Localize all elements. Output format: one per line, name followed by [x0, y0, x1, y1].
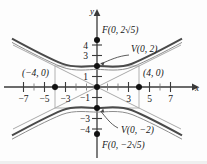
- point-vertex-upper: [94, 63, 100, 69]
- xtick-label-7: 7: [168, 94, 173, 104]
- label-vertex-lower: V(0, −2): [121, 125, 154, 136]
- ytick-label--4: −4: [80, 125, 90, 135]
- bottom-edge-strip: [0, 161, 207, 164]
- xtick-label-3: 3: [126, 94, 131, 104]
- y-axis-label: y: [89, 6, 94, 16]
- point-origin: [94, 84, 100, 90]
- ytick-label-3: 3: [83, 51, 88, 61]
- xtick-label--7: −7: [18, 94, 28, 104]
- point-vertex-lower: [94, 105, 100, 111]
- ytick-label--3: −3: [80, 114, 90, 124]
- xtick-label--3: −3: [60, 94, 70, 104]
- point-covertex-right: [136, 84, 142, 90]
- xtick-label-5: 5: [147, 94, 152, 104]
- ytick-label-1: 1: [83, 72, 88, 82]
- label-focus-lower: F(0, −2√5): [101, 140, 145, 151]
- graph-canvas: x y −7 −5 −3 3 5 7 4 3 1 −1 −3 −4 F(0, 2…: [0, 0, 207, 164]
- xtick-label--5: −5: [39, 94, 49, 104]
- label-vertex-upper: V(0, 2): [131, 44, 157, 55]
- ytick-label-4: 4: [83, 41, 88, 51]
- ytick-label--1: −1: [80, 93, 90, 103]
- y-axis-arrow: [94, 9, 101, 16]
- leader-vertex-lower: [101, 111, 119, 128]
- point-focus-lower: [94, 131, 100, 137]
- x-axis-label: x: [194, 83, 199, 93]
- leader-vertex-lower-arrow: [101, 109, 105, 113]
- point-covertex-left: [52, 84, 58, 90]
- point-focus-upper: [94, 37, 100, 43]
- leader-vertex-upper: [101, 55, 130, 64]
- label-covertex-right: (4, 0): [143, 68, 164, 79]
- label-covertex-left: (−4, 0): [22, 68, 49, 79]
- hyperbola-figure: x y −7 −5 −3 3 5 7 4 3 1 −1 −3 −4 F(0, 2…: [0, 0, 207, 164]
- label-focus-upper: F(0, 2√5): [101, 25, 138, 36]
